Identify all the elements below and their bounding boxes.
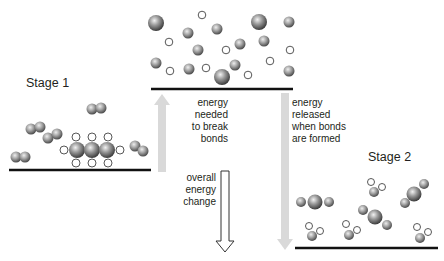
- oxygen-molecule: [130, 141, 149, 157]
- carbon-dioxide-molecule: [400, 179, 429, 208]
- overall-change-arrow: [216, 171, 234, 252]
- break-bonds-label: energy needed to break bonds: [176, 97, 228, 145]
- oxygen-molecule: [11, 152, 31, 163]
- carbon-dioxide-molecule: [358, 205, 392, 230]
- propane-molecule: [60, 133, 124, 167]
- overall-change-label: overall energy change: [172, 172, 216, 208]
- carbon-dioxide-molecule: [296, 195, 334, 210]
- oxygen-molecule: [87, 103, 107, 115]
- water-molecule: [368, 179, 386, 198]
- oxygen-molecule: [26, 122, 46, 135]
- form-bonds-label: energy released when bonds are formed: [292, 97, 372, 145]
- break-bonds-arrow: [154, 94, 170, 172]
- water-molecule: [306, 223, 324, 242]
- water-molecule: [343, 221, 361, 241]
- water-molecule: [414, 224, 432, 244]
- stage1-label: Stage 1: [26, 76, 69, 90]
- free-atoms: [148, 11, 295, 85]
- stage1-molecules: [11, 103, 149, 168]
- oxygen-molecule: [43, 129, 63, 144]
- stage2-label: Stage 2: [368, 150, 411, 164]
- stage2-molecules: [296, 179, 432, 244]
- form-bonds-arrow: [277, 93, 293, 250]
